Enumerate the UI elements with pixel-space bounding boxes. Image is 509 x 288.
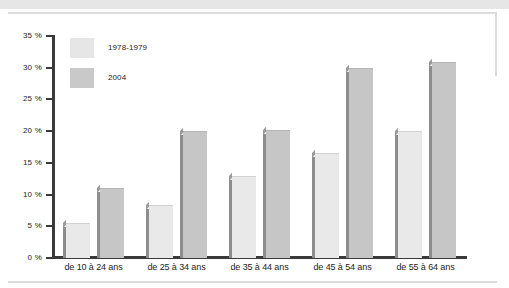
y-axis-tick-label: 35 % <box>0 31 42 40</box>
x-axis-category-label: de 10 à 24 ans <box>52 262 135 272</box>
bar-group <box>135 36 218 258</box>
bar-face <box>398 131 422 258</box>
bar-group <box>384 36 467 258</box>
bar-series-1978-1979 <box>146 205 173 258</box>
bar-group <box>301 36 384 258</box>
bar-series-2004 <box>429 62 456 258</box>
bar-series-2004 <box>346 68 373 258</box>
legend-swatch-icon <box>70 68 94 88</box>
bar-face <box>232 176 256 258</box>
bar-group <box>218 36 301 258</box>
y-axis-tick-label: 25 % <box>0 94 42 103</box>
bar-face <box>149 205 173 258</box>
page-canvas: 35 %30 %25 %20 %15 %10 %5 %0 % de 10 à 2… <box>0 0 509 288</box>
bar-chart: 35 %30 %25 %20 %15 %10 %5 %0 % de 10 à 2… <box>0 0 509 288</box>
bar-series-1978-1979 <box>63 223 90 258</box>
bar-series-1978-1979 <box>312 153 339 258</box>
x-axis-category-label: de 45 à 54 ans <box>301 262 384 272</box>
bar-face <box>315 153 339 258</box>
bar-series-2004 <box>263 130 290 258</box>
legend-label: 2004 <box>108 73 126 82</box>
bar-series-1978-1979 <box>229 176 256 258</box>
bar-series-1978-1979 <box>395 131 422 258</box>
plot-area <box>52 36 467 258</box>
bar-face <box>432 62 456 258</box>
y-axis-tick-label: 15 % <box>0 158 42 167</box>
bar-face <box>66 223 90 258</box>
y-axis-tick-label: 20 % <box>0 126 42 135</box>
legend-swatch-icon <box>70 38 94 58</box>
y-axis-tick-label: 30 % <box>0 63 42 72</box>
x-axis-category-label: de 55 à 64 ans <box>384 262 467 272</box>
y-axis-tick-label: 10 % <box>0 190 42 199</box>
x-axis-category-label: de 35 à 44 ans <box>218 262 301 272</box>
y-axis-tick-label: 0 % <box>0 253 42 262</box>
bar-face <box>266 130 290 258</box>
bar-series-2004 <box>97 188 124 258</box>
bar-face <box>100 188 124 258</box>
bar-series-2004 <box>180 131 207 258</box>
bar-face <box>349 68 373 258</box>
bar-face <box>183 131 207 258</box>
y-axis-tick-label: 5 % <box>0 221 42 230</box>
legend-label: 1978-1979 <box>108 43 147 52</box>
x-axis-category-label: de 25 à 34 ans <box>135 262 218 272</box>
